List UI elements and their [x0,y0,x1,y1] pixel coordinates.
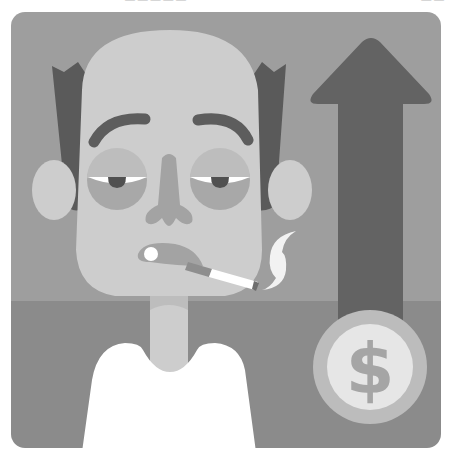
eye-right [190,148,250,210]
illustration-panel: $ [11,12,441,452]
ear-left [32,160,76,220]
tooth [144,247,158,261]
illustration: $ [0,0,452,459]
eye-left [87,148,147,210]
dollar-coin-icon: $ [313,310,427,424]
svg-text:$: $ [346,328,395,410]
ear-right [268,160,312,220]
